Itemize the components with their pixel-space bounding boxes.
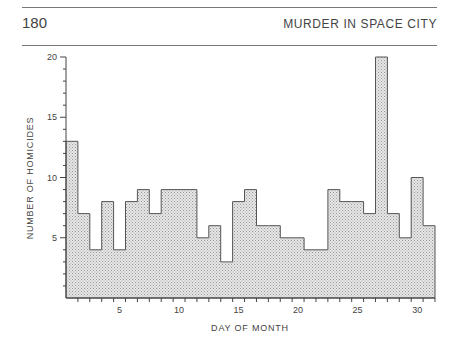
y-tick-label: 15 — [47, 112, 57, 122]
x-axis-title: DAY OF MONTH — [211, 323, 289, 333]
y-axis-title: NUMBER OF HOMICIDES — [25, 117, 35, 240]
histogram-bars — [66, 57, 435, 298]
x-tick-label: 15 — [234, 305, 244, 315]
x-tick-label: 20 — [293, 305, 303, 315]
y-tick-label: 20 — [47, 52, 57, 62]
homicides-by-day-chart: 510152051015202530 NUMBER OF HOMICIDES D… — [0, 0, 459, 346]
x-tick-label: 10 — [174, 305, 184, 315]
y-tick-label: 10 — [47, 173, 57, 183]
x-tick-label: 5 — [117, 305, 122, 315]
y-tick-label: 5 — [52, 233, 57, 243]
x-tick-label: 25 — [353, 305, 363, 315]
x-tick-label: 30 — [412, 305, 422, 315]
histogram-outline — [66, 57, 435, 298]
